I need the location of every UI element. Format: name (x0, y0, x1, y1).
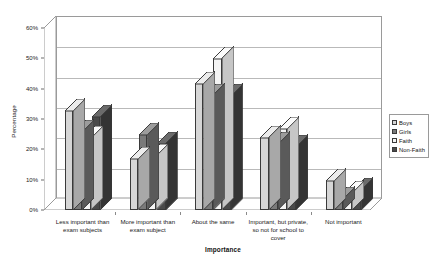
bar-side (203, 71, 215, 210)
x-axis-labels: Less important thanexam subjectsMore imp… (44, 212, 388, 246)
legend-label: Faith (399, 138, 412, 144)
legend-item[interactable]: Boys (392, 118, 425, 127)
y-tick-label: 10% (26, 177, 38, 183)
x-tick-mark (115, 212, 116, 215)
bar-top (195, 71, 215, 84)
x-axis-title: Importance (0, 246, 446, 253)
legend-item[interactable]: Girls (392, 127, 425, 136)
legend-label: Non-Faith (399, 147, 425, 153)
bar (130, 158, 138, 210)
legend-swatch-icon (392, 120, 397, 125)
x-tick-mark (246, 212, 247, 215)
legend-label: Girls (399, 129, 411, 135)
legend-item[interactable]: Faith (392, 136, 425, 145)
plot-area (44, 16, 382, 210)
bar-top (65, 98, 85, 111)
bar-top (213, 46, 233, 59)
legend-swatch-icon (392, 147, 397, 152)
bar-top (326, 168, 346, 181)
bar-side (73, 98, 85, 210)
y-tick-label: 20% (26, 146, 38, 152)
y-tick-label: 0% (29, 207, 38, 213)
legend-swatch-icon (392, 138, 397, 143)
x-tick-label-line: so not for school to (239, 226, 318, 234)
bar-face (195, 83, 203, 210)
y-tick-label: 30% (26, 116, 38, 122)
bar-top (279, 116, 299, 129)
bar (260, 137, 268, 210)
bar (195, 83, 203, 210)
bar-face (130, 158, 138, 210)
y-tick-label: 60% (26, 25, 38, 31)
x-tick-mark (311, 212, 312, 215)
bars-layer (44, 16, 382, 210)
bar-top (139, 122, 159, 135)
y-axis: 0%10%20%30%40%50%60% (0, 0, 44, 210)
legend-label: Boys (399, 120, 412, 126)
x-tick-label-line: exam subject (108, 226, 187, 234)
y-tick-label: 40% (26, 86, 38, 92)
bar-face (65, 110, 73, 210)
bar-top (92, 104, 112, 117)
x-tick-label-line: Not important (304, 218, 383, 226)
x-tick-label-line: cover (239, 234, 318, 242)
legend-swatch-icon (392, 129, 397, 134)
bar-top (260, 125, 280, 138)
y-tick-label: 50% (26, 55, 38, 61)
bar-top (157, 131, 177, 144)
bar (65, 110, 73, 210)
chart-figure: Percentage 0%10%20%30%40%50%60% Less imp… (0, 0, 446, 265)
x-tick-label: Not important (304, 218, 383, 226)
bar-top (130, 146, 150, 159)
bar (326, 180, 334, 210)
bar-face (260, 137, 268, 210)
legend-item[interactable]: Non-Faith (392, 145, 425, 154)
chart-legend: BoysGirlsFaithNon-Faith (389, 114, 429, 158)
x-tick-mark (180, 212, 181, 215)
bar-face (326, 180, 334, 210)
